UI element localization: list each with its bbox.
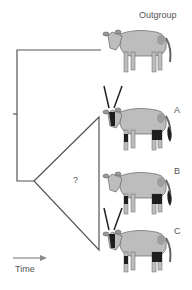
outgroup-animal (103, 30, 171, 72)
tree-lines (0, 0, 192, 290)
label-taxon-c: C (174, 226, 181, 236)
taxon-a-animal (103, 86, 172, 150)
label-outgroup: Outgroup (139, 10, 177, 20)
time-axis-label: Time (15, 264, 35, 274)
label-taxon-a: A (174, 105, 180, 115)
unknown-clade-label: ? (73, 175, 78, 185)
label-taxon-b: B (174, 166, 180, 176)
phylogeny-diagram: Outgroup A B C ? Time (0, 0, 192, 290)
taxon-b-animal (103, 172, 172, 214)
taxon-c-animal (103, 208, 171, 272)
